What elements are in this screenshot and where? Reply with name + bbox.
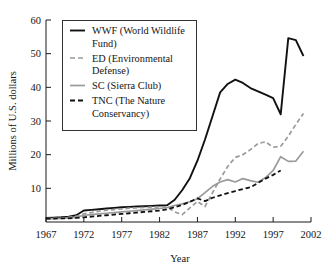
y-tick-label: 10 [31,183,42,194]
legend-label-tnc-cont: Conservancy) [92,108,149,120]
x-tick-label: 1997 [263,229,284,240]
y-tick-label: 60 [31,15,42,26]
x-tick-label: 1967 [36,229,57,240]
legend-label-sc: SC (Sierra Club) [92,80,161,92]
y-tick-label: 40 [31,82,42,93]
y-tick-label: 30 [31,116,42,127]
y-axis-title: Millions of U.S. dollars [7,71,18,170]
legend-label-ed: ED (Environmental [92,53,173,65]
x-axis-title: Year [170,253,190,264]
legend-label-wwf: WWF (World Wildlife [92,25,185,37]
x-ticks-group: 19671972197719821987199219972002 [36,217,322,240]
x-tick-label: 1987 [187,229,208,240]
legend-label-tnc: TNC (The Nature [92,95,166,107]
series-line-sc [46,151,303,219]
y-tick-label: 20 [31,149,42,160]
line-chart: 102030405060 196719721977198219871992199… [0,0,328,269]
x-tick-label: 1982 [149,229,170,240]
y-ticks-group: 102030405060 [31,15,52,194]
x-tick-label: 2002 [301,229,322,240]
chart-legend: WWF (World WildlifeFund)ED (Environmenta… [63,21,197,131]
x-tick-label: 1977 [111,229,132,240]
legend-label-ed-cont: Defense) [92,65,129,77]
x-tick-label: 1972 [73,229,94,240]
chart-figure: 102030405060 196719721977198219871992199… [0,0,328,269]
y-tick-label: 50 [31,48,42,59]
legend-label-wwf-cont: Fund) [92,38,117,50]
x-tick-label: 1992 [225,229,246,240]
